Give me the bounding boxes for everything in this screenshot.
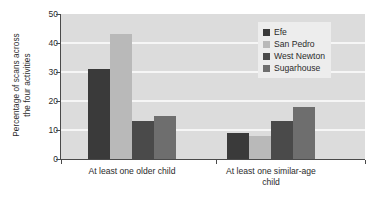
- legend-item-label: Sugarhouse: [274, 63, 320, 73]
- bar: [132, 121, 154, 159]
- x-axis-tick: [365, 160, 366, 164]
- legend: EfeSan PedroWest NewtonSugarhouse: [258, 22, 331, 78]
- legend-swatch-icon: [263, 41, 270, 48]
- legend-item-label: Efe: [274, 27, 287, 37]
- x-axis-group-label-line: At least one older child: [57, 166, 207, 177]
- bar: [88, 69, 110, 159]
- bar: [271, 121, 293, 159]
- x-axis-group-label: At least one older child: [57, 166, 207, 177]
- bar: [249, 136, 271, 159]
- bar: [227, 133, 249, 159]
- legend-item: Efe: [263, 26, 325, 38]
- bar: [154, 116, 176, 160]
- y-axis-tick-labels: 01020304050: [36, 14, 58, 159]
- legend-swatch-icon: [263, 65, 270, 72]
- legend-item-label: West Newton: [274, 51, 325, 61]
- x-axis-group-label-line: child: [196, 177, 346, 188]
- x-axis-tick: [61, 160, 62, 164]
- x-axis-group-label-line: At least one similar-age: [196, 166, 346, 177]
- bar: [293, 107, 315, 159]
- x-axis-line: [60, 159, 365, 160]
- y-axis-title-line-1: Percentage of scans across: [12, 33, 21, 137]
- legend-swatch-icon: [263, 29, 270, 36]
- x-axis-tick: [216, 160, 217, 164]
- legend-item: West Newton: [263, 50, 325, 62]
- legend-item: San Pedro: [263, 38, 325, 50]
- x-axis-group-label: At least one similar-agechild: [196, 166, 346, 187]
- y-axis-title-line-2: the four activities: [22, 33, 33, 137]
- legend-swatch-icon: [263, 53, 270, 60]
- bar-chart-figure: Percentage of scans across the four acti…: [0, 0, 373, 200]
- bar: [110, 34, 132, 159]
- legend-item: Sugarhouse: [263, 62, 325, 74]
- legend-item-label: San Pedro: [274, 39, 315, 49]
